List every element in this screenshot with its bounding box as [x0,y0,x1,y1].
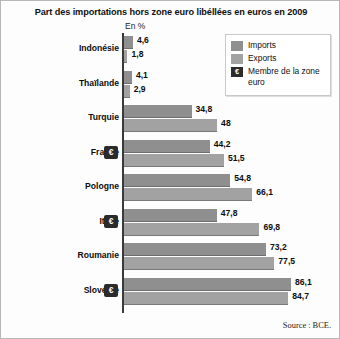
euro-member-badge-icon: € [104,146,118,159]
euro-symbol-icon: € [231,67,243,77]
bar-exports [124,85,130,98]
category-label: Pologne [9,181,119,191]
bar-value-imports: 54,8 [234,173,251,183]
bar-exports [124,154,224,167]
bar-value-exports: 84,7 [292,291,309,301]
chart-row: France€44,251,5 [1,137,340,172]
category-label: Slovénie [9,285,119,295]
category-label: Italie [9,216,119,226]
euro-member-badge-icon: € [104,284,118,297]
bar-exports [124,223,259,236]
bar-imports [124,105,192,118]
legend-label-exports: Exports [248,53,276,64]
bar-value-imports: 4,6 [137,35,149,45]
chart-title: Part des importations hors zone euro lib… [1,7,340,17]
legend-item-euro-member: € Membre de la zone euro [231,66,326,87]
bar-imports [124,71,132,84]
bar-imports [124,36,133,49]
category-label: Indonésie [9,43,119,53]
axis-unit-label: En % [125,21,145,31]
chart-row: Pologne54,866,1 [1,171,340,206]
chart-legend: Imports Exports € Membre de la zone euro [225,34,331,96]
bar-imports [124,278,291,291]
bar-value-exports: 69,8 [263,222,280,232]
bar-value-imports: 73,2 [270,242,287,252]
chart-figure: Part des importations hors zone euro lib… [0,0,340,339]
bar-imports [124,209,217,222]
legend-item-imports: Imports [231,40,326,51]
legend-item-exports: Exports [231,53,326,64]
bar-value-exports: 51,5 [228,153,245,163]
chart-row: Italie€47,869,8 [1,206,340,241]
bar-value-imports: 44,2 [214,139,231,149]
source-note: Source : BCE. [283,321,331,330]
bar-imports [124,174,230,187]
bar-value-imports: 86,1 [295,277,312,287]
bar-value-exports: 2,9 [134,84,146,94]
bar-value-exports: 48 [221,118,231,128]
bar-value-exports: 77,5 [278,256,295,266]
bar-exports [124,188,252,201]
legend-label-euro-member: Membre de la zone euro [248,66,326,87]
bar-imports [124,243,266,256]
category-label: Roumanie [9,250,119,260]
legend-swatch-imports-icon [231,41,243,51]
legend-label-imports: Imports [248,40,276,51]
chart-row: Slovénie€86,184,7 [1,275,340,310]
bar-value-imports: 34,8 [196,104,213,114]
bar-exports [124,257,274,270]
bar-exports [124,50,127,63]
bar-value-imports: 47,8 [221,208,238,218]
category-label: Thaïlande [9,78,119,88]
bar-exports [124,119,217,132]
chart-row: Turquie34,848 [1,102,340,137]
category-label: Turquie [9,112,119,122]
bar-value-exports: 66,1 [256,187,273,197]
bar-imports [124,140,210,153]
chart-row: Roumanie73,277,5 [1,240,340,275]
bar-exports [124,292,288,305]
category-label: France [9,147,119,157]
bar-value-imports: 4,1 [136,70,148,80]
bar-value-exports: 1,8 [131,49,143,59]
euro-member-badge-icon: € [104,215,118,228]
legend-swatch-exports-icon [231,54,243,64]
